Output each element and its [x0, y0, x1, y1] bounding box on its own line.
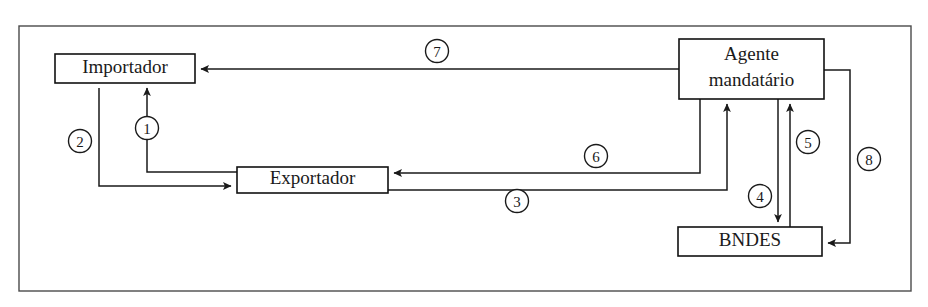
step-number-7: 7 [433, 44, 441, 60]
step-marker-6: 6 [585, 145, 608, 168]
step-marker-2: 2 [69, 130, 92, 153]
step-number-2: 2 [76, 134, 84, 150]
step-marker-4: 4 [749, 185, 772, 208]
diagram-canvas: ImportadorExportadorAgentemandatárioBNDE… [0, 0, 928, 307]
connector-step-1 [147, 88, 237, 172]
step-number-6: 6 [592, 149, 600, 165]
node-bndes[interactable]: BNDES [678, 227, 822, 256]
connector-step-3 [388, 104, 727, 190]
step-number-8: 8 [865, 152, 873, 168]
node-label-agente-mandatario: Agente [724, 43, 779, 64]
node-agente-mandatario[interactable]: Agentemandatário [679, 39, 824, 99]
step-marker-5: 5 [797, 131, 820, 154]
step-number-3: 3 [513, 194, 521, 210]
node-label-importador: Importador [82, 56, 168, 77]
node-label-bndes: BNDES [719, 229, 781, 250]
connector-step-6 [394, 99, 700, 173]
node-label-agente-mandatario: mandatário [709, 69, 794, 90]
node-layer: ImportadorExportadorAgentemandatárioBNDE… [55, 39, 824, 256]
node-importador[interactable]: Importador [55, 54, 195, 83]
step-marker-7: 7 [426, 40, 449, 63]
flow-diagram: ImportadorExportadorAgentemandatárioBNDE… [0, 0, 928, 307]
node-exportador[interactable]: Exportador [237, 167, 388, 193]
node-label-exportador: Exportador [270, 167, 356, 188]
connector-step-8 [824, 70, 850, 243]
step-marker-8: 8 [858, 148, 881, 171]
step-number-5: 5 [804, 135, 812, 151]
step-marker-3: 3 [506, 190, 529, 213]
step-number-1: 1 [143, 121, 151, 137]
step-marker-1: 1 [136, 117, 159, 140]
step-number-4: 4 [756, 189, 764, 205]
